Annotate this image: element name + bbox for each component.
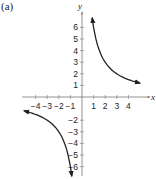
y-axis-label: y [77, 1, 82, 11]
y-tick-label: −3 [68, 127, 78, 137]
y-tick-label: 2 [73, 69, 78, 79]
y-tick-label: 5 [73, 34, 78, 44]
x-tick-label: −1 [66, 101, 76, 111]
x-axis-label: x [150, 92, 155, 102]
x-tick-label: 4 [126, 101, 131, 111]
y-tick-label: −2 [68, 115, 78, 125]
x-tick-label: 1 [91, 101, 96, 111]
x-tick-label: −4 [31, 101, 41, 111]
x-tick-label: −2 [54, 101, 64, 111]
hyperbola-chart: xy −4−3−2−11234−6−5−4−3−2123456 [0, 0, 156, 179]
y-tick-label: −5 [68, 150, 78, 160]
x-tick-label: −3 [42, 101, 52, 111]
curve-branch-quadrant-3 [24, 111, 72, 176]
axes: xy [22, 1, 155, 176]
y-tick-label: −4 [68, 138, 78, 148]
y-tick-label: 6 [73, 22, 78, 32]
y-tick-label: 4 [73, 46, 78, 56]
x-tick-label: 3 [114, 101, 119, 111]
y-tick-label: 3 [73, 57, 78, 67]
curve-branch-quadrant-1 [92, 18, 140, 83]
x-tick-label: 2 [103, 101, 108, 111]
y-tick-label: 1 [73, 80, 78, 90]
